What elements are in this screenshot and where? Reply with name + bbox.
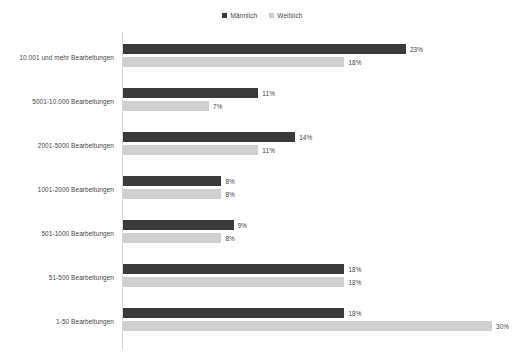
bar-group-female: 11% — [123, 145, 275, 155]
plot-area: 10.001 und mehr Bearbeitungen 23% 18% 50… — [0, 30, 525, 353]
bar-value-male: 18% — [348, 266, 361, 273]
bar-female — [123, 145, 258, 155]
legend-item-label: Weiblich — [277, 12, 302, 19]
bar-group-female: 18% — [123, 277, 361, 287]
bar-group-male: 11% — [123, 88, 275, 98]
bar-group-male: 18% — [123, 308, 361, 318]
bar-value-female: 8% — [225, 191, 234, 198]
bar-group-female: 18% — [123, 57, 361, 67]
bar-chart: Männlich Weiblich 10.001 und mehr Bearbe… — [0, 0, 525, 353]
bar-group-female: 7% — [123, 101, 223, 111]
category-label: 1-50 Bearbeitungen — [0, 308, 114, 334]
bar-male — [123, 44, 406, 54]
bar-group-male: 9% — [123, 220, 247, 230]
chart-row: 51-500 Bearbeitungen 18% 18% — [0, 264, 525, 290]
bar-male — [123, 264, 344, 274]
category-label: 1001-2000 Bearbeitungen — [0, 176, 114, 202]
legend-item-maennlich: Männlich — [222, 12, 257, 19]
bar-group-male: 18% — [123, 264, 361, 274]
bar-value-male: 23% — [410, 46, 423, 53]
bar-value-male: 8% — [225, 178, 234, 185]
chart-row: 1001-2000 Bearbeitungen 8% 8% — [0, 176, 525, 202]
bar-group-male: 8% — [123, 176, 235, 186]
chart-row: 5001-10.000 Bearbeitungen 11% 7% — [0, 88, 525, 114]
bar-male — [123, 176, 221, 186]
bar-value-male: 18% — [348, 310, 361, 317]
bar-value-male: 14% — [299, 134, 312, 141]
bar-value-female: 7% — [213, 103, 222, 110]
chart-legend: Männlich Weiblich — [0, 12, 525, 19]
bar-group-female: 8% — [123, 189, 235, 199]
bar-female — [123, 101, 209, 111]
bar-male — [123, 88, 258, 98]
bar-female — [123, 57, 344, 67]
bar-female — [123, 189, 221, 199]
bar-male — [123, 308, 344, 318]
legend-item-label: Männlich — [230, 12, 257, 19]
bar-male — [123, 220, 234, 230]
category-label: 51-500 Bearbeitungen — [0, 264, 114, 290]
bar-value-male: 9% — [238, 222, 247, 229]
bar-value-female: 18% — [348, 279, 361, 286]
bar-value-female: 30% — [496, 323, 509, 330]
bar-group-male: 23% — [123, 44, 423, 54]
chart-row: 10.001 und mehr Bearbeitungen 23% 18% — [0, 44, 525, 70]
chart-row: 2001-5000 Bearbeitungen 14% 11% — [0, 132, 525, 158]
bar-female — [123, 321, 492, 331]
bar-female — [123, 277, 344, 287]
bar-female — [123, 233, 221, 243]
bar-group-male: 14% — [123, 132, 312, 142]
legend-item-weiblich: Weiblich — [269, 12, 302, 19]
category-label: 501-1000 Bearbeitungen — [0, 220, 114, 246]
bar-value-female: 18% — [348, 59, 361, 66]
category-label: 2001-5000 Bearbeitungen — [0, 132, 114, 158]
chart-row: 1-50 Bearbeitungen 18% 30% — [0, 308, 525, 334]
category-label: 10.001 und mehr Bearbeitungen — [0, 44, 114, 70]
bar-value-male: 11% — [262, 90, 275, 97]
square-swatch-icon — [222, 13, 227, 18]
category-label: 5001-10.000 Bearbeitungen — [0, 88, 114, 114]
chart-row: 501-1000 Bearbeitungen 9% 8% — [0, 220, 525, 246]
bar-male — [123, 132, 295, 142]
bar-group-female: 8% — [123, 233, 235, 243]
bar-value-female: 8% — [225, 235, 234, 242]
bar-group-female: 30% — [123, 321, 509, 331]
square-swatch-icon — [269, 13, 274, 18]
bar-value-female: 11% — [262, 147, 275, 154]
